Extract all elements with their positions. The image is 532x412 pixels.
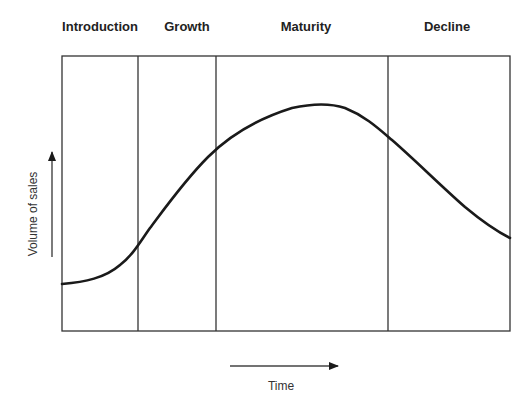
chart-frame (62, 56, 510, 331)
x-axis-label: Time (268, 379, 294, 393)
y-axis-label: Volume of sales (26, 172, 40, 257)
sales-curve (62, 105, 510, 284)
life-cycle-diagram (0, 0, 532, 412)
